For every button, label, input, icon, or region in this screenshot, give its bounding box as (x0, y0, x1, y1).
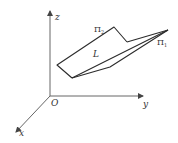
plane-pi2 (57, 27, 127, 78)
axes (16, 11, 143, 132)
x-axis (16, 96, 50, 132)
line-L-label: L (92, 49, 99, 59)
intersection-line-L (72, 30, 168, 78)
coordinate-diagram: z y x O L Π2 Π1 (0, 0, 178, 143)
plane-pi2-label: Π2 (94, 25, 104, 35)
z-axis-label: z (54, 12, 60, 22)
plane-pi1-label: Π1 (157, 38, 167, 48)
origin-label: O (51, 98, 59, 108)
x-axis-label: x (19, 128, 24, 138)
y-axis-label: y (142, 99, 149, 109)
